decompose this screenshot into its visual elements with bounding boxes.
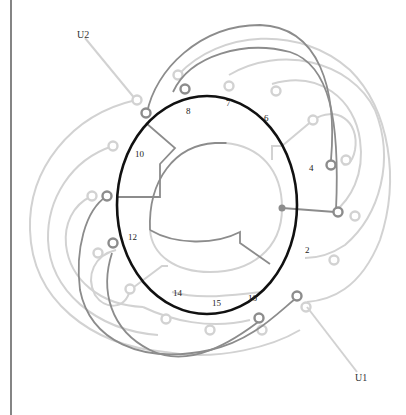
terminal-label-u2: U2 bbox=[77, 29, 89, 40]
slot-label: 7 bbox=[226, 98, 231, 108]
winding-diagram: 8 7 6 4 10 12 2 14 15 16 U2 U1 bbox=[0, 0, 406, 415]
slot-label: 8 bbox=[186, 106, 191, 116]
slot-label: 14 bbox=[173, 288, 183, 298]
slot-label: 2 bbox=[305, 245, 310, 255]
slot-label: 10 bbox=[135, 149, 145, 159]
inner-ring-dot bbox=[279, 205, 286, 212]
slot-label: 6 bbox=[264, 113, 269, 123]
u1-lead bbox=[307, 307, 357, 372]
slot-label: 15 bbox=[212, 298, 222, 308]
terminal-label-u1: U1 bbox=[355, 372, 367, 383]
dark-terminals bbox=[103, 85, 343, 323]
slot-labels: 8 7 6 4 10 12 2 14 15 16 bbox=[128, 98, 314, 308]
slot-label: 4 bbox=[309, 163, 314, 173]
stator-ring bbox=[117, 96, 297, 314]
slot-label: 16 bbox=[248, 293, 258, 303]
slot-label: 12 bbox=[128, 232, 137, 242]
